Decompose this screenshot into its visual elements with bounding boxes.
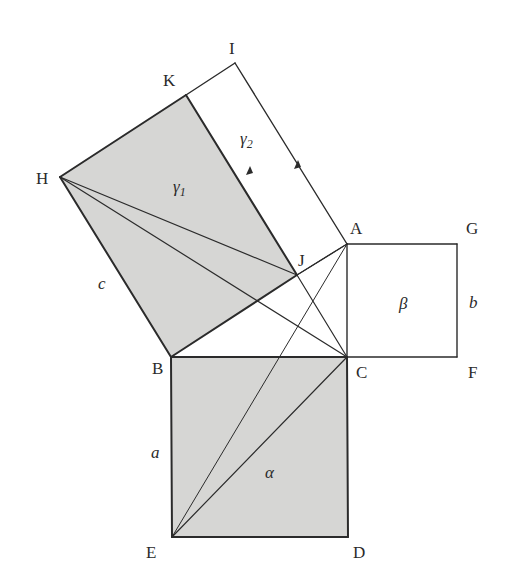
label-side-a: a (151, 443, 160, 462)
pythagoras-diagram: I K H A G J B C F E D γ2 γ1 β α c b a (0, 0, 510, 586)
label-beta: β (398, 294, 408, 313)
edge-KI (186, 63, 235, 95)
label-alpha: α (265, 463, 275, 482)
label-H: H (36, 169, 48, 188)
label-gamma2: γ2 (240, 129, 253, 151)
label-side-b: b (469, 293, 478, 312)
edge-CD (347, 357, 348, 537)
label-D: D (353, 543, 365, 562)
label-E: E (146, 543, 156, 562)
label-J: J (298, 251, 305, 270)
label-A: A (350, 219, 363, 238)
label-G: G (466, 219, 478, 238)
label-I: I (229, 39, 235, 58)
label-side-c: c (98, 274, 106, 293)
arrow-icon-kj (246, 166, 253, 175)
label-K: K (163, 71, 176, 90)
label-B: B (152, 359, 163, 378)
label-F: F (468, 363, 477, 382)
edge-EB (171, 357, 172, 537)
label-C: C (356, 363, 367, 382)
